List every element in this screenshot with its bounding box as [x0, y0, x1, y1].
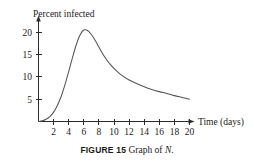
x-tick-label-20: 20	[185, 127, 195, 137]
x-tick-label-18: 18	[170, 127, 180, 137]
y-tick-label-5: 5	[27, 95, 32, 105]
caption-text: Graph of	[128, 145, 162, 155]
caption-figure-number: FIGURE 15	[80, 145, 126, 155]
x-tick-label-6: 6	[81, 127, 86, 137]
figure-caption: FIGURE 15 Graph of N.	[0, 144, 254, 156]
caption-terminator: .	[171, 145, 173, 155]
x-axis-title: Time (days)	[198, 117, 244, 128]
x-tick-label-12: 12	[124, 127, 134, 137]
y-axis-title: Percent infected	[33, 9, 95, 19]
figure-container: 20 15 10 5 2 4 6 8 10 12 14 16 18 20 Per…	[0, 0, 254, 165]
x-tick-label-10: 10	[109, 127, 119, 137]
x-tick-label-14: 14	[139, 127, 149, 137]
curve-percent-infected	[39, 30, 190, 122]
y-tick-label-10: 10	[23, 72, 33, 82]
x-tick-label-2: 2	[51, 127, 56, 137]
x-tick-label-16: 16	[155, 127, 165, 137]
y-tick-label-20: 20	[23, 28, 33, 38]
chart-plot: 20 15 10 5 2 4 6 8 10 12 14 16 18 20 Per…	[0, 0, 254, 165]
x-tick-label-8: 8	[97, 127, 102, 137]
y-tick-label-15: 15	[23, 50, 33, 60]
x-tick-label-4: 4	[66, 127, 71, 137]
